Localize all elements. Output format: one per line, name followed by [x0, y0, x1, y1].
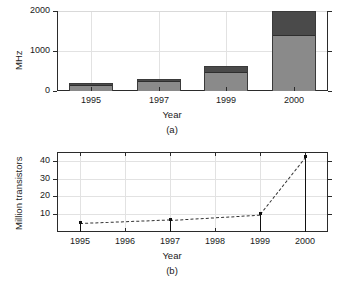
plot-area-b [57, 152, 328, 232]
x-tick-label-a: 1997 [133, 96, 185, 105]
x-tick-a [294, 87, 295, 91]
y-tick-label-b: 20 [40, 191, 50, 200]
data-point-marker-b [304, 155, 307, 158]
y-tick-label-a: 2000 [30, 6, 50, 15]
data-point-marker-b [79, 221, 82, 224]
gridline-vertical-b [215, 153, 216, 231]
y-tick-right-a [328, 11, 332, 12]
y-tick-b [53, 214, 57, 215]
y-tick-a [53, 11, 57, 12]
x-tick-b [215, 228, 216, 232]
data-point-marker-b [259, 212, 262, 215]
y-tick-a [53, 91, 57, 92]
y-axis-title-b: Million transistors [14, 157, 24, 230]
y-tick-right-b [328, 196, 332, 197]
y-tick-a [53, 51, 57, 52]
data-stem-b [80, 223, 81, 232]
y-tick-right-b [328, 214, 332, 215]
x-tick-a [159, 87, 160, 91]
y-tick-right-b [328, 179, 332, 180]
gridline-horizontal-b [58, 196, 327, 197]
panel-caption-b: (b) [0, 265, 344, 276]
gridline-horizontal-b [58, 214, 327, 215]
y-tick-label-a: 1000 [30, 46, 50, 55]
x-tick-label-a: 2000 [268, 96, 320, 105]
y-tick-label-b: 40 [40, 156, 50, 165]
data-stem-b [305, 157, 306, 232]
y-tick-right-b [328, 161, 332, 162]
gridline-vertical-b [80, 153, 81, 231]
x-tick-label-a: 1999 [200, 96, 252, 105]
x-axis-title-a: Year [0, 110, 344, 120]
figure-container: MHz Year (a) 0100020001995199719992000 M… [0, 0, 344, 285]
x-tick-top-b [80, 152, 81, 156]
x-tick-label-a: 1995 [65, 96, 117, 105]
gridline-horizontal-b [58, 161, 327, 162]
y-tick-b [53, 161, 57, 162]
panel-caption-a: (a) [0, 124, 344, 135]
bar-segment-upper-a [273, 12, 315, 36]
data-stem-b [260, 214, 261, 232]
x-tick-top-b [125, 152, 126, 156]
x-tick-b [125, 228, 126, 232]
x-tick-top-b [260, 152, 261, 156]
y-tick-right-a [328, 51, 332, 52]
y-tick-b [53, 196, 57, 197]
y-tick-b [53, 179, 57, 180]
data-stem-b [170, 220, 171, 232]
gridline-vertical-b [125, 153, 126, 231]
x-tick-top-b [215, 152, 216, 156]
y-tick-label-b: 30 [40, 174, 50, 183]
data-point-marker-b [169, 218, 172, 221]
y-tick-right-a [328, 91, 332, 92]
bar-segment-lower-a [273, 36, 315, 91]
x-tick-label-b: 2000 [279, 237, 331, 246]
y-tick-label-b: 10 [40, 209, 50, 218]
x-tick-top-b [170, 152, 171, 156]
bar-group-a [272, 11, 316, 91]
y-axis-title-a: MHz [14, 50, 24, 70]
chart-panel-b: Million transistors Year (b) 10203040199… [0, 140, 344, 285]
x-tick-a [91, 87, 92, 91]
gridline-vertical-a [91, 12, 92, 90]
y-tick-label-a: 0 [45, 86, 50, 95]
x-tick-a [226, 87, 227, 91]
x-axis-title-b: Year [0, 251, 344, 261]
chart-panel-a: MHz Year (a) 0100020001995199719992000 [0, 0, 344, 143]
